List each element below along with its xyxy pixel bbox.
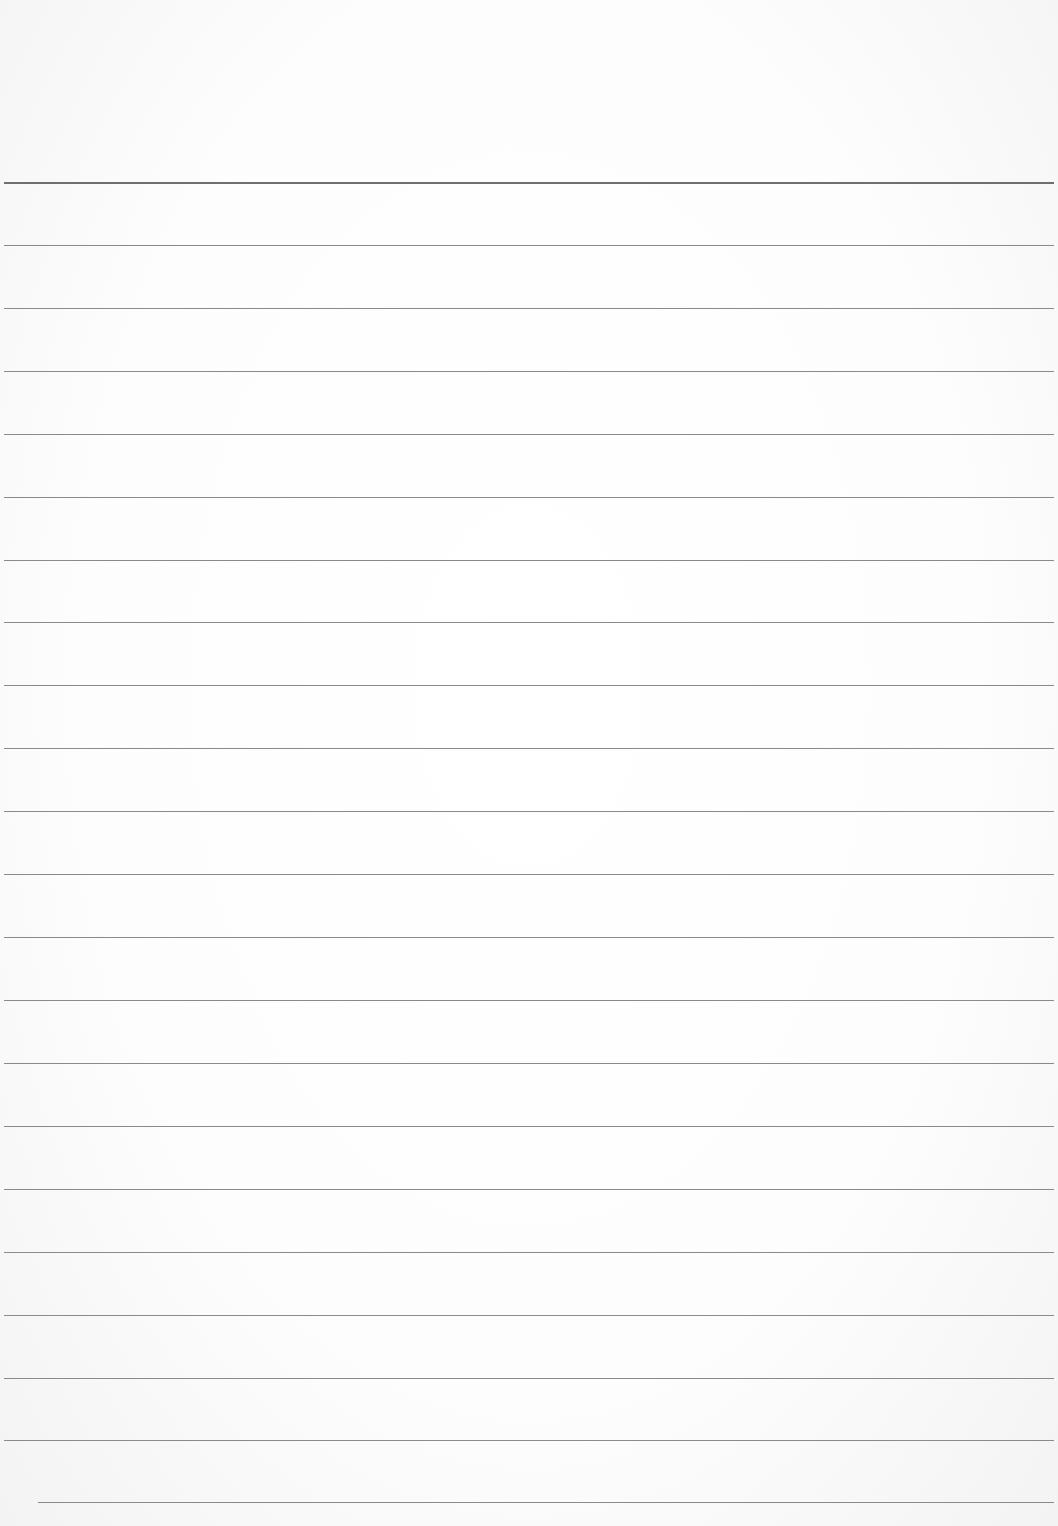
rule-line: [4, 1315, 1054, 1316]
rule-line: [4, 245, 1054, 246]
rule-line: [4, 1440, 1054, 1441]
rule-line: [4, 1126, 1054, 1127]
rule-line: [4, 748, 1054, 749]
rule-line: [38, 1502, 1054, 1503]
rule-line: [4, 1252, 1054, 1253]
rule-line: [4, 622, 1054, 623]
rule-line: [4, 874, 1054, 875]
rule-line: [4, 308, 1054, 309]
header-rule-line: [4, 182, 1054, 184]
rule-line: [4, 1000, 1054, 1001]
rule-line: [4, 1378, 1054, 1379]
rule-line: [4, 497, 1054, 498]
rule-line: [4, 1189, 1054, 1190]
rule-line: [4, 937, 1054, 938]
rule-line: [4, 434, 1054, 435]
lined-paper-sheet: [0, 0, 1058, 1526]
rule-line: [4, 371, 1054, 372]
rule-line: [4, 1063, 1054, 1064]
rule-line: [4, 811, 1054, 812]
rule-line: [4, 560, 1054, 561]
rule-line: [4, 685, 1054, 686]
